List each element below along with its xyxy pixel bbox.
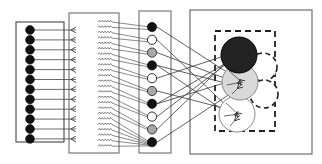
input-node: [26, 95, 35, 104]
output-node-black: [147, 138, 156, 147]
hidden-to-output-edges: [112, 22, 150, 146]
input-nodes: [26, 26, 35, 144]
weight-squiggle-marks: [98, 20, 112, 146]
diagram-root: [0, 0, 322, 164]
input-node: [26, 105, 35, 114]
input-node: [26, 45, 35, 54]
hidden-layer-panel: [69, 13, 119, 153]
architecture-diagram: [0, 0, 322, 164]
input-to-hidden-edges: [34, 30, 76, 139]
input-node: [26, 85, 35, 94]
output-node-black: [147, 22, 156, 31]
output-node-gray: [147, 48, 156, 57]
cluster-circles: [219, 37, 278, 132]
input-node: [26, 125, 35, 134]
input-node: [26, 115, 35, 124]
input-node: [26, 135, 35, 144]
output-node-black: [147, 99, 156, 108]
output-node-black: [147, 61, 156, 70]
output-node-gray: [147, 125, 156, 134]
output-nodes: [147, 22, 156, 146]
input-node: [26, 75, 35, 84]
output-node-white: [147, 74, 156, 83]
input-node: [26, 55, 35, 64]
output-node-gray: [147, 86, 156, 95]
input-node: [26, 65, 35, 74]
output-node-white: [147, 35, 156, 44]
input-node: [26, 36, 35, 45]
input-node: [26, 26, 35, 35]
output-node-white: [147, 112, 156, 121]
cluster-black-circle: [221, 37, 257, 73]
